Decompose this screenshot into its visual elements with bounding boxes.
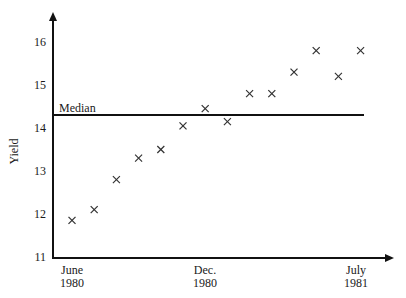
- data-point-marker: [335, 73, 342, 80]
- data-points: [69, 47, 365, 224]
- x-tick-label: July1981: [331, 264, 381, 290]
- data-point-marker: [135, 155, 142, 162]
- median-label: Median: [59, 101, 96, 116]
- data-point-marker: [291, 69, 298, 76]
- y-tick-label: 11: [22, 251, 46, 263]
- data-point-marker: [357, 47, 364, 54]
- data-point-marker: [157, 146, 164, 153]
- data-point-marker: [268, 90, 275, 97]
- y-tick-label: 16: [22, 36, 46, 48]
- axes: [49, 12, 394, 262]
- data-point-marker: [180, 122, 187, 129]
- data-point-marker: [313, 47, 320, 54]
- y-tick-label: 14: [22, 122, 46, 134]
- y-tick-label: 13: [22, 165, 46, 177]
- data-point-marker: [246, 90, 253, 97]
- x-tick-label: Dec.1980: [180, 264, 230, 290]
- y-tick-label: 15: [22, 79, 46, 91]
- data-point-marker: [113, 176, 120, 183]
- scatter-chart: [0, 0, 406, 298]
- data-point-marker: [202, 105, 209, 112]
- y-tick-label: 12: [22, 208, 46, 220]
- x-tick-label: June1980: [47, 264, 97, 290]
- data-point-marker: [69, 217, 76, 224]
- data-point-marker: [224, 118, 231, 125]
- data-point-marker: [91, 206, 98, 213]
- y-axis-title: Yield: [7, 132, 22, 172]
